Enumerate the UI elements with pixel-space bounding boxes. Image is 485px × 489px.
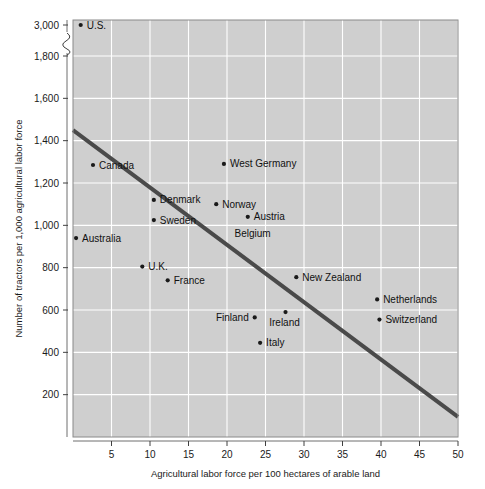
- x-tick-label: 30: [298, 449, 310, 460]
- y-tick-label: 1,200: [34, 178, 59, 189]
- data-point-label: Denmark: [160, 194, 202, 205]
- x-tick-label: 25: [260, 449, 272, 460]
- y-tick-label: 1,400: [34, 135, 59, 146]
- y-tick-label: 600: [42, 305, 59, 316]
- data-point-label: Belgium: [235, 228, 271, 239]
- data-point-marker: [79, 23, 83, 27]
- data-point-label: Australia: [82, 233, 121, 244]
- y-tick-label: 1,000: [34, 220, 59, 231]
- data-point-marker: [222, 162, 226, 166]
- data-point-label: France: [174, 275, 206, 286]
- data-point-marker: [140, 265, 144, 269]
- y-tick-label: 800: [42, 262, 59, 273]
- data-point-label: Canada: [99, 160, 134, 171]
- data-point-marker: [253, 315, 257, 319]
- x-tick-label: 15: [183, 449, 195, 460]
- y-tick-label: 200: [42, 389, 59, 400]
- data-point-label: Sweden: [160, 215, 196, 226]
- data-point-label: West Germany: [230, 158, 296, 169]
- x-tick-label: 40: [375, 449, 387, 460]
- x-tick-label: 5: [109, 449, 115, 460]
- data-point-marker: [152, 218, 156, 222]
- data-point-marker: [166, 278, 170, 282]
- y-tick-label: 1,600: [34, 93, 59, 104]
- data-point-marker: [258, 341, 262, 345]
- data-point-label: Netherlands: [383, 294, 437, 305]
- x-tick-label: 35: [337, 449, 349, 460]
- y-tick-label: 400: [42, 347, 59, 358]
- y-axis-title: Number of tractors per 1,000 agricultura…: [13, 119, 24, 337]
- data-point-label: Ireland: [269, 317, 300, 328]
- data-point-label: Finland: [216, 312, 249, 323]
- data-point-label: Switzerland: [385, 314, 437, 325]
- x-axis-title: Agricultural labor force per 100 hectare…: [151, 468, 380, 479]
- y-tick-label: 1,800: [34, 51, 59, 62]
- data-point-marker: [74, 236, 78, 240]
- data-point-marker: [377, 317, 381, 321]
- x-tick-label: 10: [144, 449, 156, 460]
- data-point-marker: [375, 297, 379, 301]
- x-tick-label: 45: [414, 449, 426, 460]
- data-point-marker: [246, 215, 250, 219]
- data-point-marker: [152, 198, 156, 202]
- data-point-marker: [294, 275, 298, 279]
- x-tick-label: 50: [452, 449, 464, 460]
- data-point-label: U.S.: [87, 20, 106, 31]
- data-point-label: Norway: [222, 199, 256, 210]
- data-point-marker: [91, 163, 95, 167]
- x-tick-label: 20: [221, 449, 233, 460]
- data-point-marker: [283, 310, 287, 314]
- scatter-chart: U.S.CanadaAustraliaDenmarkSwedenU.K.Fran…: [0, 0, 485, 489]
- data-point-marker: [214, 202, 218, 206]
- data-point-label: Austria: [254, 211, 286, 222]
- plot-area: U.S.CanadaAustraliaDenmarkSwedenU.K.Fran…: [0, 0, 485, 489]
- data-point-label: Italy: [266, 337, 284, 348]
- data-point-label: New Zealand: [302, 272, 361, 283]
- data-point-label: U.K.: [148, 261, 167, 272]
- y-tick-label: 3,000: [34, 20, 59, 31]
